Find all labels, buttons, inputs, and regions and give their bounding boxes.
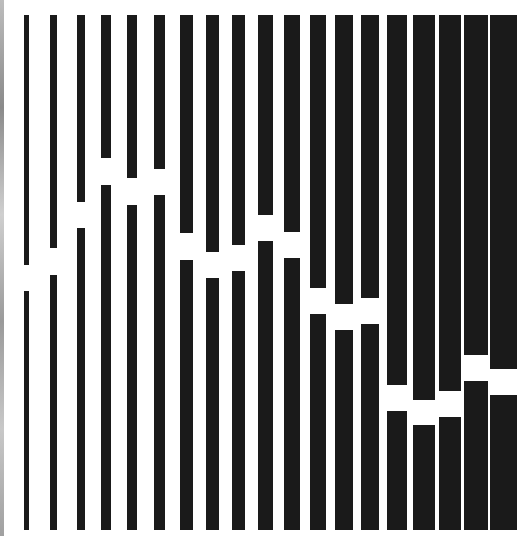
bar-9-lower — [232, 271, 245, 530]
bar-10-upper — [258, 15, 273, 215]
bar-13-lower — [335, 330, 353, 530]
bar-14-upper — [361, 15, 379, 298]
bar-14-lower — [361, 324, 379, 530]
bar-17-upper — [439, 15, 461, 391]
bar-9-upper — [232, 15, 245, 245]
bar-5-lower — [127, 205, 137, 530]
bar-6-lower — [154, 195, 165, 530]
bar-16-upper — [413, 15, 435, 400]
bar-2-upper — [50, 15, 57, 248]
bar-12-upper — [310, 15, 326, 288]
bar-7-lower — [180, 260, 193, 530]
bar-1-upper — [24, 15, 29, 265]
bar-3-upper — [77, 15, 85, 202]
bar-18-lower — [464, 381, 488, 530]
bar-artwork — [0, 0, 527, 536]
bar-1-lower — [24, 291, 29, 530]
bar-5-upper — [127, 15, 137, 178]
bar-12-lower — [310, 314, 326, 530]
bar-3-lower — [77, 228, 85, 530]
bar-4-upper — [101, 15, 111, 158]
bar-11-upper — [284, 15, 300, 232]
bar-15-lower — [387, 411, 407, 530]
bar-4-lower — [101, 185, 111, 530]
bar-8-lower — [206, 278, 219, 530]
bar-18-upper — [464, 15, 488, 355]
bar-11-lower — [284, 258, 300, 530]
bar-19-lower — [490, 395, 517, 530]
bar-2-lower — [50, 275, 57, 530]
bar-19-upper — [490, 15, 517, 369]
bar-13-upper — [335, 15, 353, 304]
bar-16-lower — [413, 425, 435, 530]
bar-6-upper — [154, 15, 165, 169]
bar-10-lower — [258, 241, 273, 530]
bar-7-upper — [180, 15, 193, 233]
bar-15-upper — [387, 15, 407, 385]
bar-17-lower — [439, 417, 461, 530]
bar-8-upper — [206, 15, 219, 252]
